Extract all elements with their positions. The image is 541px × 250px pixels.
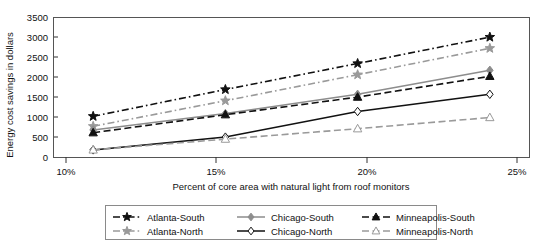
legend-label: Minneapolis-South [396, 212, 475, 223]
data-point [221, 96, 231, 105]
legend-label: Atlanta-North [147, 226, 203, 237]
x-axis-title: Percent of core area with natural light … [172, 181, 409, 192]
series-atlanta-south [88, 32, 494, 120]
data-point [221, 85, 231, 94]
y-tick-label: 2000 [27, 72, 48, 83]
legend-item-chicago-north[interactable]: Chicago-North [237, 226, 332, 237]
series-line [93, 70, 490, 130]
x-tick-label: 10% [56, 166, 76, 177]
data-point [353, 70, 363, 79]
series-layer [88, 32, 494, 154]
y-tick-label: 3500 [27, 12, 48, 23]
x-tick-label: 15% [206, 166, 226, 177]
data-point [88, 111, 98, 120]
data-point [353, 59, 363, 68]
legend-item-chicago-south[interactable]: Chicago-South [237, 212, 334, 223]
y-tick-label: 2500 [27, 52, 48, 63]
x-tick-label: 25% [507, 166, 527, 177]
legend-label: Chicago-North [271, 226, 332, 237]
energy-cost-savings-line-chart: Energy cost savings in dollars 3500 3000… [0, 0, 541, 250]
y-tick-label: 0 [43, 152, 48, 163]
series-line [93, 48, 490, 126]
x-axis-tick-labels: 10% 15% 20% 25% [56, 166, 527, 177]
data-point [486, 72, 494, 80]
legend-label: Chicago-South [271, 212, 334, 223]
series-atlanta-north [88, 43, 494, 130]
data-point [486, 113, 494, 121]
y-axis-title: Energy cost savings in dollars [4, 32, 15, 158]
y-axis-tick-labels: 3500 3000 2500 2000 1500 1000 500 0 [27, 12, 48, 163]
y-tick-label: 500 [32, 132, 48, 143]
y-tick-label: 3000 [27, 32, 48, 43]
y-tick-label: 1000 [27, 112, 48, 123]
legend-label: Minneapolis-North [396, 226, 473, 237]
data-point [485, 43, 495, 52]
chart-figure: Energy cost savings in dollars 3500 3000… [0, 0, 541, 250]
legend-label: Atlanta-South [147, 212, 205, 223]
x-tick-label: 20% [357, 166, 377, 177]
data-point [487, 90, 494, 98]
data-point [485, 32, 495, 41]
y-tick-label: 1500 [27, 92, 48, 103]
series-minneapolis-north [89, 113, 494, 153]
data-point [354, 107, 361, 115]
plot-frame [54, 18, 530, 158]
